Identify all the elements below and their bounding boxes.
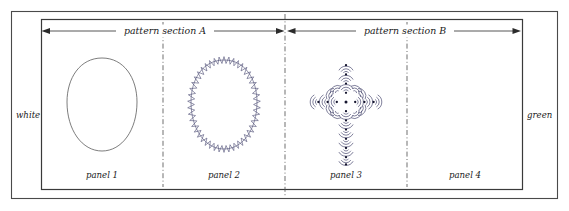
panel-3-motif-frond-cross [310, 64, 382, 166]
section-a-label: pattern section A [124, 25, 206, 36]
pattern-layout-figure: white green pattern section A pattern se… [0, 0, 569, 211]
diagram-canvas: white green pattern section A pattern se… [0, 0, 569, 211]
section-b-label: pattern section B [364, 25, 446, 36]
panel-1-motif-plain-oval [67, 58, 137, 151]
panel-2-motif-zigzag-oval [188, 57, 261, 153]
section-a-dimension-arrow: pattern section A [42, 25, 285, 38]
inner-frame [42, 20, 523, 190]
panel-2-label: panel 2 [208, 170, 240, 180]
panel-3-label: panel 3 [330, 170, 363, 180]
section-b-dimension-arrow: pattern section B [287, 25, 521, 38]
panel-4-label: panel 4 [449, 170, 481, 180]
panel-1-label: panel 1 [86, 170, 118, 180]
edge-label-left: white [16, 110, 40, 120]
edge-label-right: green [527, 110, 552, 120]
